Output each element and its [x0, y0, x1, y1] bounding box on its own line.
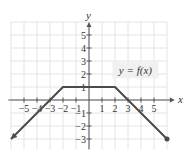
- y-tick-label: −3: [75, 134, 86, 145]
- y-tick-label: −1: [75, 108, 86, 119]
- y-tick-label: 4: [81, 43, 86, 54]
- right-end-closed-dot-icon: [165, 137, 170, 142]
- function-label: y = f(x): [112, 62, 158, 78]
- x-tick-label: 3: [126, 103, 131, 114]
- function-curve: [11, 87, 170, 142]
- y-tick-label: −2: [75, 121, 86, 132]
- x-tick-label: 2: [113, 103, 118, 114]
- y-axis-arrow-icon: [87, 22, 92, 27]
- function-label-text: y = f(x): [118, 64, 152, 77]
- x-tick-label: −2: [58, 103, 69, 114]
- x-axis-title: x: [177, 93, 183, 105]
- y-tick-label: 3: [81, 56, 86, 67]
- function-graph: xy −5−4−3−2−112345−3−2−112345 y = f(x) x…: [0, 0, 185, 163]
- plot-area: xy −5−4−3−2−112345−3−2−112345 y = f(x): [0, 0, 185, 163]
- y-axis-title: y: [85, 9, 91, 21]
- x-tick-label: −5: [19, 103, 30, 114]
- x-axis-arrow-icon: [170, 98, 175, 103]
- x-tick-label: 1: [100, 103, 105, 114]
- x-tick-label: 5: [152, 103, 157, 114]
- y-tick-label: 5: [81, 30, 86, 41]
- y-tick-label: 2: [81, 69, 86, 80]
